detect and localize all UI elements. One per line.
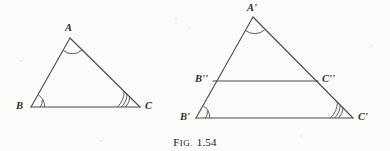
vertex-label-b-prime: B' bbox=[180, 112, 190, 123]
scan-speck bbox=[175, 18, 177, 20]
scan-speck bbox=[100, 140, 102, 142]
scan-speck bbox=[20, 60, 22, 62]
angle-mark-c bbox=[118, 91, 130, 107]
figure-caption-prefix: FIG. bbox=[173, 138, 192, 148]
angle-mark-b bbox=[38, 95, 44, 107]
triangle-abc bbox=[31, 38, 140, 107]
scan-speck bbox=[300, 135, 302, 137]
angle-mark-a bbox=[64, 50, 83, 54]
angle-mark-c-prime bbox=[331, 102, 344, 118]
figure-caption-number: 1.54 bbox=[197, 136, 217, 148]
triangle-a-prime-b-prime-c-prime bbox=[196, 17, 353, 118]
vertex-label-b: B bbox=[16, 101, 23, 112]
side-a-prime-c-prime bbox=[253, 17, 353, 118]
vertex-label-a-prime: A' bbox=[247, 3, 257, 14]
side-ac bbox=[70, 38, 140, 107]
scan-speck bbox=[188, 27, 190, 29]
vertex-label-c: C bbox=[145, 101, 152, 112]
scan-speck bbox=[370, 45, 372, 47]
vertex-label-c-prime: C' bbox=[358, 112, 368, 123]
side-ab bbox=[31, 38, 70, 107]
geometry-figure: A B C A' B' C' B'' C'' FIG.1.54 bbox=[0, 0, 390, 151]
angle-mark-b-prime bbox=[203, 106, 209, 118]
vertex-label-a: A bbox=[65, 23, 72, 34]
angle-mark-a-prime bbox=[246, 30, 265, 34]
figure-caption: FIG.1.54 bbox=[0, 133, 390, 149]
side-a-prime-b-prime bbox=[196, 17, 253, 118]
vertex-label-c-double-prime: C'' bbox=[322, 74, 335, 85]
vertex-label-b-double-prime: B'' bbox=[195, 74, 208, 85]
